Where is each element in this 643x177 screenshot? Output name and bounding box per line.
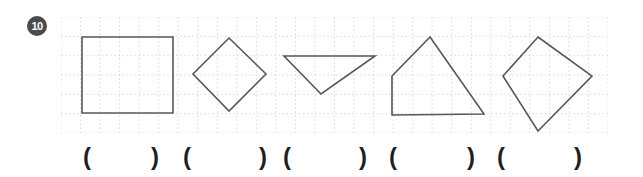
- close-paren: ): [151, 143, 159, 171]
- shape-quadrilateral: [392, 37, 484, 115]
- answer-slot-2: ( ): [183, 143, 267, 171]
- close-paren: ): [574, 143, 582, 171]
- close-paren: ): [467, 143, 475, 171]
- shape-kite: [503, 37, 592, 131]
- close-paren: ): [259, 143, 267, 171]
- open-paren: (: [183, 143, 191, 171]
- open-paren: (: [283, 143, 291, 171]
- open-paren: (: [389, 143, 397, 171]
- worksheet-page: 10 ( ) ( ) ( ) ( ) ( ): [0, 0, 643, 177]
- answer-slot-3: ( ): [283, 143, 367, 171]
- close-paren: ): [359, 143, 367, 171]
- open-paren: (: [497, 143, 505, 171]
- answer-slot-4: ( ): [389, 143, 475, 171]
- grid-panel: [61, 17, 608, 133]
- answer-slot-1: ( ): [83, 143, 159, 171]
- open-paren: (: [83, 143, 91, 171]
- question-number-badge: 10: [27, 16, 47, 36]
- answer-slot-5: ( ): [497, 143, 582, 171]
- grid-canvas: [61, 17, 608, 133]
